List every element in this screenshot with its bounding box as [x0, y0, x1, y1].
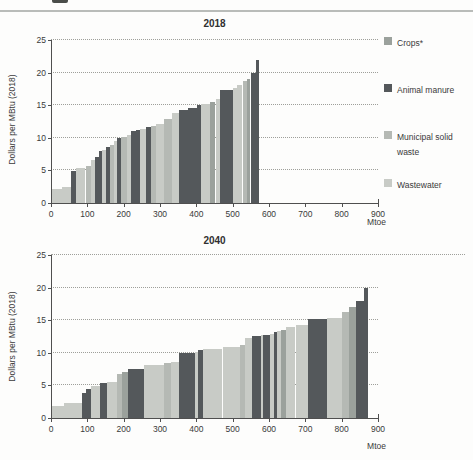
x-tick-label-900: 900: [362, 424, 394, 434]
x-tick-mark-100: [87, 203, 88, 207]
x-tick-mark-0: [51, 418, 52, 422]
x-tick-label-800: 800: [326, 424, 358, 434]
gridline-20: [51, 72, 378, 73]
bar-segment-wastewater: [171, 362, 179, 418]
x-axis-line: [51, 203, 378, 204]
y-tick-label-25: 25: [20, 250, 46, 260]
y-tick-label-5: 5: [20, 380, 46, 390]
x-tick-mark-700: [305, 203, 306, 207]
x-tick-label-300: 300: [144, 209, 176, 219]
x-tick-label-600: 600: [253, 424, 285, 434]
bar-segment-animal_manure: [128, 369, 144, 418]
x-tick-label-500: 500: [217, 424, 249, 434]
chart-title-2018: 2018: [51, 18, 378, 29]
x-tick-mark-900: [378, 203, 379, 207]
animal-manure-swatch-icon: [384, 84, 392, 92]
x-tick-mark-200: [124, 418, 125, 422]
y-axis-title-2040: Dollars per MBtu (2018): [7, 252, 20, 422]
bar-segment-wastewater: [172, 113, 179, 203]
x-tick-label-700: 700: [289, 209, 321, 219]
y-tick-label-0: 0: [20, 198, 46, 208]
bar-segment-wastewater: [51, 189, 62, 203]
bar-segment-wastewater: [201, 104, 210, 203]
bar-segment-animal_manure: [220, 90, 232, 203]
x-tick-mark-300: [160, 203, 161, 207]
x-tick-mark-900: [378, 418, 379, 422]
crops-swatch-icon: [384, 37, 392, 45]
bar-segment-animal_manure: [179, 353, 195, 418]
y-axis-title-2018: Dollars per MBtu (2018): [7, 35, 20, 205]
bar-segment-animal_manure: [356, 301, 364, 418]
x-tick-mark-200: [124, 203, 125, 207]
x-axis-line: [51, 418, 378, 419]
x-tick-mark-800: [342, 418, 343, 422]
x-axis-unit-2040: Mtoe: [326, 441, 386, 451]
bar-segment-wastewater: [51, 406, 64, 418]
bar-segment-wastewater: [286, 327, 296, 418]
y-tick-label-15: 15: [20, 100, 46, 110]
x-axis-unit-2018: Mtoe: [326, 217, 386, 227]
gridline-20: [51, 287, 378, 288]
x-tick-mark-0: [51, 203, 52, 207]
wastewater-swatch-icon: [384, 179, 392, 187]
x-tick-label-400: 400: [180, 424, 212, 434]
gridline-25: [51, 39, 378, 40]
x-tick-label-0: 0: [35, 424, 67, 434]
y-axis-line: [51, 40, 52, 207]
y-tick-label-10: 10: [20, 133, 46, 143]
chart-title-2040: 2040: [51, 235, 378, 246]
bar-segment-wastewater: [91, 386, 100, 418]
x-tick-mark-500: [233, 203, 234, 207]
x-tick-mark-800: [342, 203, 343, 207]
bar-segment-crops: [349, 307, 356, 419]
x-tick-label-200: 200: [108, 424, 140, 434]
bar-segment-wastewater: [107, 382, 118, 418]
bar-segment-wastewater: [144, 365, 163, 419]
bar-segment-animal_manure: [364, 288, 368, 418]
gridline-25: [51, 254, 465, 255]
y-tick-label-0: 0: [20, 413, 46, 423]
figure-biogas-supply-cost-curves: 2018 Dollars per MBtu (2018) 05101520250…: [0, 0, 473, 460]
x-tick-label-300: 300: [144, 424, 176, 434]
x-tick-mark-600: [269, 418, 270, 422]
legend-label: Animal manure: [397, 83, 472, 98]
bar-segment-animal_manure: [252, 336, 261, 418]
bar-segment-wastewater: [64, 403, 81, 418]
bar-segment-animal_manure: [179, 110, 188, 203]
bar-segment-municipal_solid_waste: [342, 312, 349, 418]
bar-segment-wastewater: [62, 187, 71, 203]
bar-segment-animal_manure: [188, 108, 197, 203]
bar-segment-animal_manure: [308, 319, 328, 418]
bar-segment-wastewater: [156, 124, 165, 204]
x-tick-mark-400: [196, 203, 197, 207]
y-tick-label-15: 15: [20, 315, 46, 325]
y-tick-label-10: 10: [20, 348, 46, 358]
y-tick-label-20: 20: [20, 68, 46, 78]
x-tick-mark-700: [305, 418, 306, 422]
x-tick-mark-500: [233, 418, 234, 422]
x-tick-label-0: 0: [35, 209, 67, 219]
bar-segment-municipal_solid_waste: [164, 119, 172, 203]
bar-segment-wastewater: [203, 349, 223, 418]
legend-label: Crops*: [397, 36, 472, 51]
scan-artifact-mark: [52, 0, 68, 3]
x-tick-mark-400: [196, 418, 197, 422]
x-tick-label-400: 400: [180, 209, 212, 219]
legend-label: Wastewater: [397, 178, 472, 193]
bar-segment-animal_manure: [256, 60, 259, 203]
bar-segment-wastewater: [223, 347, 240, 418]
y-tick-label-5: 5: [20, 165, 46, 175]
figure-top-rule: [0, 10, 473, 12]
x-tick-label-100: 100: [71, 424, 103, 434]
x-tick-label-200: 200: [108, 209, 140, 219]
legend-label: Municipal solid waste: [397, 130, 472, 160]
y-axis-line: [51, 255, 52, 422]
x-tick-label-500: 500: [217, 209, 249, 219]
bar-segment-wastewater: [296, 325, 308, 418]
x-tick-mark-100: [87, 418, 88, 422]
bar-segment-wastewater: [327, 318, 342, 418]
bar-segment-wastewater: [245, 338, 252, 418]
municipal-solid-waste-swatch-icon: [384, 131, 392, 139]
y-tick-label-20: 20: [20, 283, 46, 293]
bar-segment-wastewater: [76, 168, 85, 203]
